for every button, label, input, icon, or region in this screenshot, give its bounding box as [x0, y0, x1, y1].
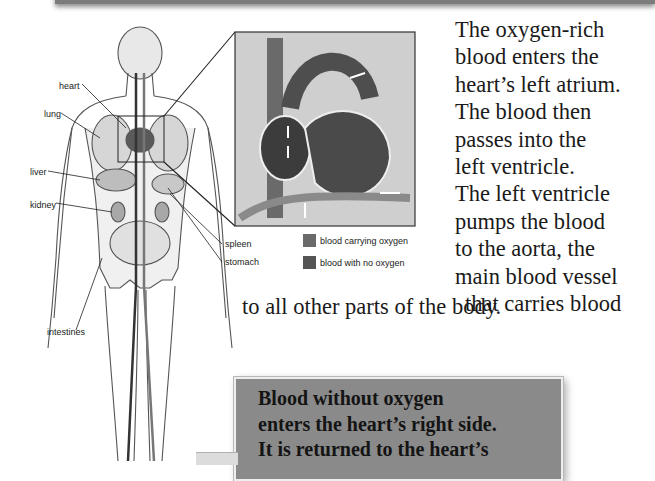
callout-text: Blood without oxygen enters the heart’s … [258, 386, 497, 463]
legend-label-oxygenated: blood carrying oxygen [320, 236, 408, 246]
paragraph-line: to the aorta, the [455, 235, 635, 262]
legend-deoxygenated: blood with no oxygen [303, 256, 405, 269]
paragraph-line: pumps the blood [455, 208, 635, 235]
legend-swatch-deoxygenated [303, 256, 316, 269]
label-stomach: stomach [225, 257, 259, 267]
callout-line: Blood without oxygen [258, 386, 497, 412]
callout-line: enters the heart’s right side. [258, 412, 497, 438]
top-banner [55, 0, 655, 4]
legend-swatch-oxygenated [303, 234, 316, 247]
paragraph-line: The oxygen-rich [455, 16, 635, 43]
body-paragraph: The oxygen-rich blood enters the heart’s… [455, 16, 635, 317]
label-heart: heart [59, 81, 80, 91]
paragraph-line: The blood then [455, 98, 635, 125]
paragraph-line: left ventricle. [455, 153, 635, 180]
paragraph-line: blood enters the [455, 43, 635, 70]
paragraph-line: main blood vessel [455, 263, 635, 290]
page-tab-stub [196, 452, 238, 465]
label-liver: liver [30, 167, 47, 177]
heart-inset [235, 32, 415, 226]
paragraph-last-line: to all other parts of the body. [242, 293, 501, 320]
paragraph-line: heart’s left atrium. [455, 71, 635, 98]
paragraph-line: passes into the [455, 126, 635, 153]
label-lung: lung [44, 109, 61, 119]
legend-oxygenated: blood carrying oxygen [303, 234, 408, 247]
callout-line: It is returned to the heart’s [258, 437, 497, 463]
callout-box: Blood without oxygen enters the heart’s … [234, 377, 563, 481]
label-kidney: kidney [30, 200, 56, 210]
legend-label-deoxygenated: blood with no oxygen [320, 258, 405, 268]
label-intestines: intestines [47, 327, 85, 337]
label-spleen: spleen [225, 239, 252, 249]
paragraph-line: The left ventricle [455, 180, 635, 207]
